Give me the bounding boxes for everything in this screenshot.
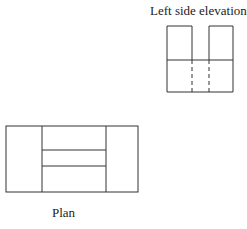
drawing-canvas bbox=[0, 0, 247, 229]
left-side-elevation bbox=[167, 26, 233, 92]
plan-view bbox=[6, 126, 138, 192]
elevation-outline bbox=[167, 26, 233, 92]
plan-outline bbox=[6, 126, 138, 192]
